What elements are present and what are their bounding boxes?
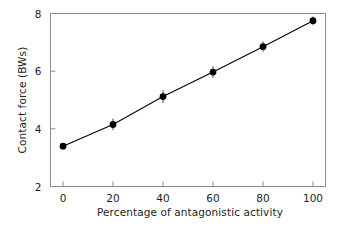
plot-area: 0204060801002468 [0, 0, 343, 230]
y-tick-label: 8 [35, 8, 42, 20]
data-point-marker [160, 93, 167, 100]
y-tick-label: 2 [35, 181, 42, 193]
y-tick-label: 6 [35, 65, 42, 77]
x-tick-label: 20 [106, 192, 119, 204]
x-tick-label: 100 [303, 192, 323, 204]
x-tick-label: 80 [256, 192, 269, 204]
y-tick-label: 4 [35, 123, 42, 135]
x-tick-label: 0 [60, 192, 67, 204]
data-line [63, 21, 313, 146]
data-point-marker [260, 43, 267, 50]
axes-frame [51, 14, 326, 187]
series-line [63, 21, 313, 146]
data-markers [60, 17, 317, 149]
data-point-marker [310, 17, 317, 24]
data-point-marker [210, 69, 217, 76]
data-point-marker [60, 143, 67, 150]
axis-ticks [51, 71, 314, 186]
axes-box [51, 14, 326, 187]
x-tick-label: 40 [156, 192, 169, 204]
data-point-marker [110, 121, 117, 128]
axis-tick-labels: 0204060801002468 [35, 8, 323, 204]
chart-figure: Contact force (BWs) Percentage of antago… [0, 0, 343, 230]
x-tick-label: 60 [206, 192, 219, 204]
